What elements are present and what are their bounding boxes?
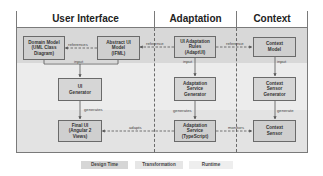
box-label: Adaptation <box>183 123 207 128</box>
box-label: UI Adaptation <box>180 39 210 44</box>
box-context-model: ContextModel <box>253 37 296 57</box>
box-label: Sensor <box>267 131 283 136</box>
legend-transformation: Transformation <box>135 161 183 169</box>
box-context-sensor-generator: ContextSensorGenerator <box>253 77 296 101</box>
box-ui-generator: UIGenerator <box>58 78 102 101</box>
box-label: Views) <box>73 134 87 139</box>
box-label: Domain Model <box>28 40 59 45</box>
box-label: UI <box>78 84 83 89</box>
edge-label-adapts: adapts <box>129 125 142 130</box>
edge-label-generates: generates <box>173 108 192 113</box>
box-domain-model: Domain Model(UML ClassDiagram) <box>23 36 65 60</box>
legend-design-time: Design Time <box>81 161 128 169</box>
box-label: Generator <box>264 92 286 97</box>
edge-label-input: input <box>277 59 286 64</box>
edge-label-monitors: monitors <box>228 125 244 130</box>
box-label: Model <box>268 47 281 52</box>
box-label: Context <box>266 125 283 130</box>
box-label: Generator <box>69 90 91 95</box>
box-label: Context <box>266 41 283 46</box>
box-label: Adaptation <box>183 81 207 86</box>
box-label: (UML Class <box>32 45 57 50</box>
box-label: Generator <box>184 92 206 97</box>
box-label: Final UI <box>72 123 89 128</box>
edge-label-input: input <box>74 59 83 64</box>
box-adaptation-service-generator: AdaptationServiceGenerator <box>174 77 216 101</box>
box-ui-adaptation-rules: UI AdaptationRules(AdaptUI) <box>174 36 216 58</box>
box-label: Sensor <box>267 86 283 91</box>
box-label: (Angular 2 <box>69 128 92 133</box>
box-label: Abstract UI <box>106 40 131 45</box>
edge-label-generate: generate <box>277 108 294 113</box>
box-label: (AdaptUI) <box>185 50 206 55</box>
box-label: Diagram) <box>34 51 54 56</box>
box-label: Model <box>112 45 125 50</box>
box-adaptation-service: AdaptationService(TypeScript) <box>174 120 216 142</box>
box-label: (IFML) <box>112 51 126 56</box>
box-final-ui: Final UI(Angular 2Views) <box>58 120 102 142</box>
legend-runtime: Runtime <box>189 161 233 169</box>
box-label: Service <box>187 86 203 91</box>
edge-label-reference: reference <box>226 41 244 46</box>
edge-label-references: references <box>68 42 88 47</box>
box-label: Service <box>187 128 203 133</box>
box-label: Context <box>266 81 283 86</box>
box-label: Rules <box>189 44 202 49</box>
edge-label-input: input <box>183 59 192 64</box>
edge-label-generates: generates <box>84 107 103 112</box>
edge-label-reference: reference <box>146 41 164 46</box>
box-label: (TypeScript) <box>182 134 208 139</box>
box-context-sensor: ContextSensor <box>253 120 296 142</box>
box-abstract-ui-model: Abstract UIModel(IFML) <box>97 36 140 60</box>
